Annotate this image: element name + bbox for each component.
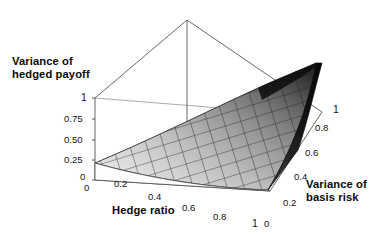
x-tick-0: 0 (84, 183, 89, 193)
z-axis-title: Variance of hedged payoff (12, 55, 90, 80)
y-tick-06: 0.6 (305, 148, 318, 158)
y-axis-title-line1: Variance of (306, 178, 367, 191)
x-tick-06: 0.6 (182, 203, 195, 213)
z-axis-title-line2: hedged payoff (12, 68, 90, 81)
x-axis-title: Hedge ratio (112, 204, 175, 217)
y-tick-0: 0 (264, 219, 269, 229)
x-tick-04: 0.4 (148, 192, 161, 202)
z-tick-025: 0.25 (64, 155, 83, 165)
x-tick-08: 0.8 (213, 212, 226, 222)
x-tick-1: 1 (252, 219, 258, 229)
y-tick-08: 0.8 (315, 123, 328, 133)
y-tick-1: 1 (333, 105, 339, 115)
y-tick-02: 0.2 (283, 198, 296, 208)
z-tick-1: 1 (81, 93, 87, 103)
y-axis-title: Variance of basis risk (306, 178, 367, 203)
z-tick-0: 0 (80, 172, 85, 182)
z-axis-title-line1: Variance of (12, 55, 90, 68)
axis-tick-marks (92, 98, 95, 180)
z-tick-050: 0.50 (64, 135, 83, 145)
y-axis-title-line2: basis risk (306, 191, 367, 204)
surface-plot-figure: Variance of hedged payoff 1 0.75 0.50 0.… (0, 0, 389, 251)
plot-canvas (0, 0, 389, 251)
z-tick-075: 0.75 (64, 114, 83, 124)
x-tick-02: 0.2 (114, 179, 127, 189)
